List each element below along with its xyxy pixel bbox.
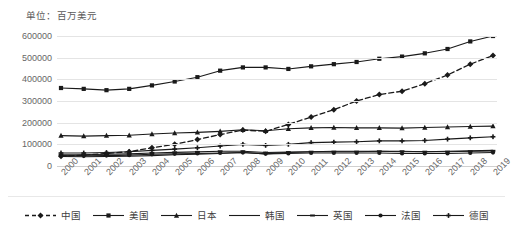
y-axis-tick-label: 600000	[22, 31, 52, 41]
data-point-circle-marker	[400, 151, 404, 155]
data-point-plus-marker	[195, 145, 200, 150]
data-point-square-marker	[468, 39, 472, 43]
data-point-diamond-marker	[38, 212, 44, 218]
data-point-square-marker	[104, 88, 108, 92]
data-point-plus-marker	[446, 213, 451, 218]
series-line	[61, 56, 493, 157]
data-point-plus-marker	[491, 134, 496, 139]
y-axis-tick-label: 0	[47, 161, 52, 171]
gridline	[57, 101, 497, 102]
data-point-circle-marker	[264, 152, 268, 156]
legend-key-法国	[364, 210, 397, 221]
data-point-circle-marker	[445, 151, 449, 155]
data-point-square-marker	[218, 69, 222, 73]
gridline	[57, 58, 497, 59]
data-point-circle-marker	[423, 151, 427, 155]
data-point-circle-marker	[218, 151, 222, 155]
data-point-circle-marker	[195, 151, 199, 155]
data-point-square-marker	[423, 51, 427, 55]
data-point-square-marker	[332, 62, 336, 66]
data-point-square-marker	[82, 87, 86, 91]
plot-area	[57, 36, 497, 166]
legend-item-美国[interactable]: 美国	[92, 208, 149, 222]
gridline	[57, 144, 497, 145]
legend-item-中国[interactable]: 中国	[24, 208, 81, 222]
data-point-diamond-marker	[331, 107, 337, 113]
legend-label: 中国	[61, 208, 81, 222]
legend-label: 法国	[401, 208, 421, 222]
data-point-plus-marker	[422, 138, 427, 143]
y-axis-tick-label: 100000	[22, 139, 52, 149]
data-point-plus-marker	[172, 147, 177, 152]
data-point-plus-marker	[468, 135, 473, 140]
legend-item-英国[interactable]: 英国	[296, 208, 353, 222]
data-point-circle-marker	[309, 151, 313, 155]
legend-key-中国	[24, 210, 57, 221]
series-日本	[58, 123, 495, 138]
data-point-diamond-marker	[445, 72, 451, 78]
data-point-square-marker	[286, 67, 290, 71]
data-point-circle-marker	[378, 213, 382, 217]
data-point-diamond-marker	[399, 88, 405, 94]
series-美国	[59, 36, 495, 92]
y-axis-tick-label: 400000	[22, 74, 52, 84]
legend-item-日本[interactable]: 日本	[160, 208, 217, 222]
y-axis-tick-label: 500000	[22, 53, 52, 63]
data-point-diamond-marker	[194, 137, 200, 143]
data-point-square-marker	[264, 65, 268, 69]
data-point-plus-marker	[400, 138, 405, 143]
data-point-square-marker	[150, 83, 154, 87]
data-point-square-marker	[106, 213, 110, 217]
legend-key-美国	[92, 210, 125, 221]
data-point-circle-marker	[241, 150, 245, 154]
legend-item-法国[interactable]: 法国	[364, 208, 421, 222]
data-point-circle-marker	[150, 152, 154, 156]
data-point-diamond-marker	[467, 61, 473, 67]
gridline	[57, 79, 497, 80]
data-point-square-marker	[445, 47, 449, 51]
data-point-circle-marker	[173, 152, 177, 156]
data-point-circle-marker	[491, 150, 495, 154]
legend-key-韩国	[228, 210, 261, 221]
data-point-dash-marker	[310, 214, 315, 216]
data-point-square-marker	[59, 86, 63, 90]
legend-label: 韩国	[265, 208, 285, 222]
data-point-square-marker	[241, 65, 245, 69]
data-point-diamond-marker	[422, 81, 428, 87]
data-point-square-marker	[127, 87, 131, 91]
y-axis-tick-label: 300000	[22, 96, 52, 106]
legend-key-英国	[296, 210, 329, 221]
y-axis-labels: 6000005000004000003000002000001000000	[0, 36, 52, 166]
data-point-diamond-marker	[308, 114, 314, 120]
legend-item-韩国[interactable]: 韩国	[228, 208, 285, 222]
legend-label: 英国	[333, 208, 353, 222]
data-point-diamond-marker	[376, 92, 382, 98]
legend-label: 日本	[197, 208, 217, 222]
data-point-circle-marker	[354, 151, 358, 155]
data-point-circle-marker	[468, 151, 472, 155]
data-point-circle-marker	[377, 151, 381, 155]
data-point-square-marker	[354, 60, 358, 64]
data-point-circle-marker	[286, 151, 290, 155]
data-point-square-marker	[309, 64, 313, 68]
data-point-plus-marker	[377, 138, 382, 143]
y-axis-tick-label: 200000	[22, 118, 52, 128]
data-point-circle-marker	[332, 151, 336, 155]
chart-unit-title: 单位：百万美元	[26, 8, 97, 22]
chart-legend: 中国美国日本韩国英国法国德国	[0, 203, 513, 227]
gridline	[57, 36, 497, 37]
legend-label: 美国	[129, 208, 149, 222]
data-point-plus-marker	[445, 137, 450, 142]
legend-item-德国[interactable]: 德国	[432, 208, 489, 222]
chart-container: 单位：百万美元 60000050000040000030000020000010…	[0, 0, 513, 231]
legend-key-日本	[160, 210, 193, 221]
gridline	[57, 123, 497, 124]
legend-divider	[8, 196, 505, 197]
legend-key-德国	[432, 210, 465, 221]
legend-label: 德国	[469, 208, 489, 222]
